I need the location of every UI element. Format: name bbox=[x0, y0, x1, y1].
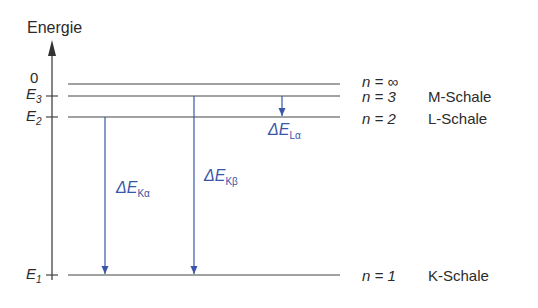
tick-label-E1: E1 bbox=[26, 266, 42, 285]
label-dE-K-beta: ΔEKβ bbox=[204, 168, 238, 187]
shell-label-L: L-Schale bbox=[428, 111, 487, 126]
tick-label-E2: E2 bbox=[26, 108, 42, 127]
axis-arrow-icon bbox=[48, 40, 56, 56]
axis-label: Energie bbox=[27, 20, 82, 36]
n-label-3: n = 3 bbox=[362, 89, 396, 104]
tick-label-zero: 0 bbox=[30, 70, 38, 85]
n-label-2: n = 2 bbox=[362, 111, 396, 126]
label-dE-L-alpha: ΔELα bbox=[268, 122, 301, 141]
shell-label-M: M-Schale bbox=[428, 89, 491, 104]
n-label-1: n = 1 bbox=[362, 268, 396, 283]
energy-level-diagram bbox=[0, 0, 538, 308]
n-label-inf: n = ∞ bbox=[362, 74, 398, 89]
label-dE-K-alpha: ΔEKα bbox=[116, 180, 150, 199]
tick-label-E3: E3 bbox=[26, 86, 42, 105]
shell-label-K: K-Schale bbox=[428, 268, 489, 283]
